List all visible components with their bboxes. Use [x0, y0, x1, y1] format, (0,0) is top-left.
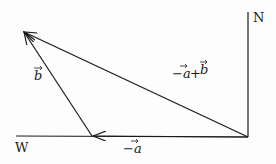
west-label: W [15, 141, 28, 154]
north-label: N [253, 11, 264, 24]
neg-a-label: −a [123, 142, 142, 155]
sum-neg-a-label: −a [172, 67, 191, 80]
b-label: b [34, 69, 42, 82]
sum-b-label: b [200, 63, 208, 76]
vector-sum [24, 32, 248, 137]
vector-diagram: N W −a b −a + b [0, 0, 276, 164]
